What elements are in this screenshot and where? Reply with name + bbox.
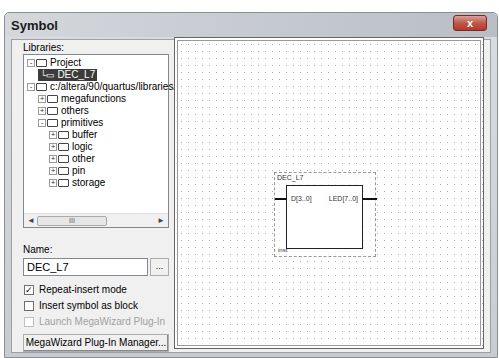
checkbox-icon <box>24 317 34 327</box>
dialog-client: Libraries: -Project └▭DEC_L7 -c:/altera/… <box>11 39 491 353</box>
close-icon: x <box>467 17 473 29</box>
expand-icon[interactable]: + <box>49 155 57 163</box>
output-port-label: LED[7..0] <box>329 195 358 202</box>
libraries-label: Libraries: <box>23 42 64 53</box>
close-button[interactable]: x <box>453 15 487 31</box>
libraries-tree[interactable]: -Project └▭DEC_L7 -c:/altera/90/quartus/… <box>23 54 169 228</box>
folder-icon <box>58 155 69 163</box>
folder-open-icon <box>47 119 58 127</box>
repeat-insert-checkbox[interactable]: ✓Repeat-insert mode <box>24 284 127 296</box>
folder-icon <box>47 95 58 103</box>
scroll-left-icon[interactable]: ◄ <box>27 216 35 225</box>
browse-button[interactable]: ... <box>150 258 169 276</box>
folder-open-icon <box>36 83 47 91</box>
launch-megawizard-checkbox: Launch MegaWizard Plug-In <box>24 316 165 328</box>
horizontal-scrollbar[interactable]: ◄ III ► <box>24 213 168 227</box>
folder-icon <box>58 131 69 139</box>
expand-icon[interactable]: + <box>49 131 57 139</box>
checkmark-icon[interactable]: ✓ <box>24 285 34 295</box>
symbol-preview-canvas[interactable]: DEC_L7 D[3..0] LED[7..0] inst <box>174 37 484 349</box>
tree-item-other[interactable]: +other <box>49 153 95 165</box>
symbol-name: DEC_L7 <box>277 174 303 181</box>
tree-item-pin[interactable]: +pin <box>49 165 85 177</box>
scroll-thumb[interactable]: III <box>37 216 107 226</box>
tree-item-megafunctions[interactable]: +megafunctions <box>38 93 126 105</box>
dialog-title: Symbol <box>11 18 58 33</box>
checkbox-icon[interactable] <box>24 301 34 311</box>
expand-icon[interactable]: + <box>38 95 46 103</box>
symbol-body: D[3..0] LED[7..0] <box>286 185 363 249</box>
expand-icon[interactable]: + <box>49 179 57 187</box>
folder-icon <box>58 167 69 175</box>
folder-icon <box>58 143 69 151</box>
symbol-preview: DEC_L7 D[3..0] LED[7..0] inst <box>274 172 376 257</box>
folder-icon <box>58 179 69 187</box>
tree-item-quartus-libraries[interactable]: -c:/altera/90/quartus/libraries/ <box>27 81 176 93</box>
title-bar[interactable]: Symbol x <box>5 13 497 37</box>
expand-icon[interactable]: + <box>49 143 57 151</box>
name-label: Name: <box>23 244 52 255</box>
output-pin <box>363 198 377 200</box>
symbol-icon: └▭ <box>40 70 55 80</box>
scroll-right-icon[interactable]: ► <box>157 216 165 225</box>
name-input[interactable]: DEC_L7 <box>23 258 148 276</box>
tree-item-buffer[interactable]: +buffer <box>49 129 97 141</box>
tree-item-others[interactable]: +others <box>38 105 89 117</box>
tree-item-primitives[interactable]: -primitives <box>38 117 103 129</box>
tree-item-project[interactable]: -Project <box>27 57 81 69</box>
expand-icon[interactable]: + <box>38 107 46 115</box>
expand-icon[interactable]: + <box>49 167 57 175</box>
symbol-dialog: Symbol x Libraries: -Project └▭DEC_L7 -c… <box>4 12 498 358</box>
folder-open-icon <box>36 59 47 67</box>
collapse-icon[interactable]: - <box>27 59 35 67</box>
tree-item-logic[interactable]: +logic <box>49 141 93 153</box>
tree-item-storage[interactable]: +storage <box>49 177 105 189</box>
input-port-label: D[3..0] <box>291 195 312 202</box>
folder-icon <box>47 107 58 115</box>
insert-as-block-checkbox[interactable]: Insert symbol as block <box>24 300 138 312</box>
tree-item-dec-l7[interactable]: └▭DEC_L7 <box>38 69 97 81</box>
collapse-icon[interactable]: - <box>38 119 46 127</box>
instance-label: inst <box>278 247 287 253</box>
collapse-icon[interactable]: - <box>27 83 35 91</box>
megawizard-button[interactable]: MegaWizard Plug-In Manager... <box>23 334 169 352</box>
